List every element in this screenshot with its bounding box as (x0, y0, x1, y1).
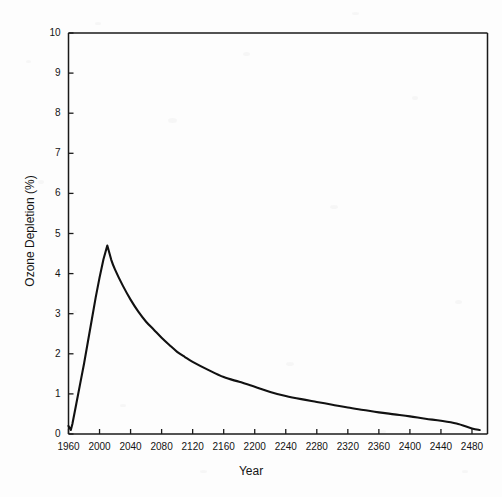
y-tick-label: 10 (35, 28, 61, 38)
chart-figure: 012345678910 196020002040208021202160220… (0, 0, 502, 497)
y-tick-label: 4 (35, 269, 61, 279)
y-tick-label: 5 (35, 229, 61, 239)
data-line-ozone-depletion (69, 246, 480, 430)
y-tick-label: 7 (35, 148, 61, 158)
tick-marks (69, 33, 472, 434)
y-tick-label: 0 (35, 429, 61, 439)
y-tick-label: 1 (35, 389, 61, 399)
y-tick-label: 3 (35, 309, 61, 319)
y-tick-label: 9 (35, 68, 61, 78)
y-tick-label: 2 (35, 349, 61, 359)
axes-frame (69, 33, 488, 434)
y-axis-title: Ozone Depletion (%) (23, 141, 37, 321)
y-tick-label: 8 (35, 108, 61, 118)
x-axis-title: Year (0, 464, 502, 478)
plot-canvas (0, 0, 502, 497)
y-tick-label: 6 (35, 188, 61, 198)
x-tick-label: 2480 (452, 442, 492, 452)
